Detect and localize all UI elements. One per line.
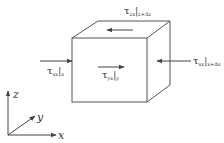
cube-front-face xyxy=(72,38,147,102)
coordinate-axes: z y x xyxy=(8,88,65,142)
cube-edge xyxy=(147,21,170,38)
z-axis-label: z xyxy=(12,88,19,101)
y-axis-label: y xyxy=(36,111,44,124)
y-axis xyxy=(8,116,35,135)
cube-edge xyxy=(147,85,170,102)
top-stress-label: τzx|z+Δz xyxy=(124,5,151,17)
center-stress-label: τyx|y xyxy=(102,69,119,82)
left-stress-label: τxx|x xyxy=(47,65,64,77)
x-axis-label: x xyxy=(58,129,65,142)
cube xyxy=(72,21,170,102)
cube-edge xyxy=(72,21,98,38)
right-stress-label: τxx|x+Δx xyxy=(193,55,221,67)
stress-element-diagram: τzx|z+Δz τxx|x τyx|y τxx|x+Δx z y x xyxy=(0,0,224,143)
